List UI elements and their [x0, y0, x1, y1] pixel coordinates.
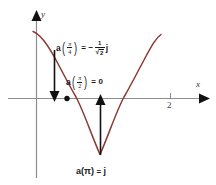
vector-arrowhead-down-icon [50, 91, 60, 102]
fraction-pi-over-4: π 4 [67, 41, 72, 55]
right-paren: ) [91, 167, 94, 176]
x-axis-arrowhead-icon [199, 94, 210, 104]
annotation-a-pi-over-2: a ( π 2 ) = 0 [66, 75, 103, 89]
fraction-pi-over-2: π 2 [77, 75, 82, 89]
x-tick-label-2: 2 [167, 101, 172, 110]
zero-crossing-dot [64, 96, 69, 101]
plot-canvas [0, 0, 216, 185]
fraction-denominator: √ 2 [95, 47, 105, 56]
y-axis-label: y [41, 10, 45, 19]
right-paren: ) [74, 41, 77, 55]
annotation-a-pi: a ( π ) = j [76, 167, 106, 176]
minus-sign: − [88, 44, 93, 52]
unit-vector-j: j [104, 167, 107, 176]
equals-sign: = [81, 44, 86, 52]
equals-sign: = [96, 168, 101, 176]
annotation-a-pi-over-4: a ( π 4 ) = − 1 √ 2 j [56, 40, 108, 56]
x-axis-label: x [196, 80, 200, 89]
left-paren: ( [62, 41, 65, 55]
fraction-one-over-root-two: 1 √ 2 [95, 40, 105, 56]
vector-function-plot-figure: y x 2 a ( π 4 ) = − 1 √ 2 j a ( π 2 [0, 0, 216, 185]
fraction-denominator: 2 [77, 82, 82, 90]
function-name-a: a [66, 78, 71, 87]
equals-sign: = [91, 78, 96, 86]
y-axis-arrowhead-icon [32, 10, 42, 21]
fraction-denominator: 4 [67, 47, 72, 55]
right-paren: ) [84, 75, 87, 89]
value-zero: 0 [98, 78, 102, 86]
unit-vector-j: j [106, 44, 108, 53]
function-name-a: a [56, 44, 61, 53]
vector-arrowhead-up-icon [96, 94, 106, 105]
argument-pi: π [84, 167, 91, 176]
left-paren: ( [72, 75, 75, 89]
square-root-icon: √ 2 [96, 48, 104, 56]
